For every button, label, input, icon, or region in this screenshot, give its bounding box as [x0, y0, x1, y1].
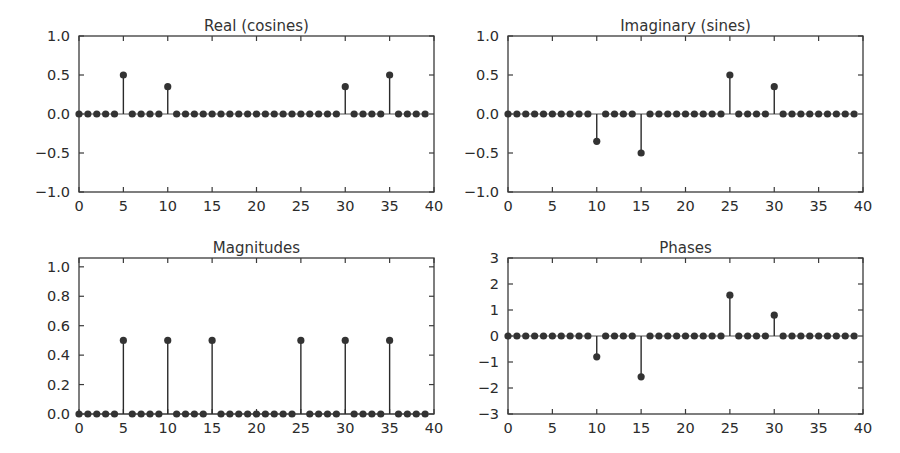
stem-marker [824, 332, 831, 339]
stem-marker [262, 410, 269, 417]
stem-marker [593, 138, 600, 145]
stem-series [504, 71, 857, 156]
stem-marker [235, 410, 242, 417]
stem-marker [271, 410, 278, 417]
stem-marker [682, 110, 689, 117]
chart-panel-real-cosines: Real (cosines)0510152025303540−1.0−0.50.… [0, 0, 900, 453]
axes-frame [79, 258, 434, 414]
stem-marker [182, 110, 189, 117]
x-ticklabel: 10 [588, 420, 606, 436]
stem-marker [691, 110, 698, 117]
y-ticklabel: −3 [478, 406, 499, 422]
stem-marker [377, 410, 384, 417]
x-ticklabel: 20 [676, 420, 694, 436]
stem-marker [717, 332, 724, 339]
stem-marker [200, 410, 207, 417]
chart-axes-real-cosines: 0510152025303540−1.0−0.50.00.51.0 [19, 30, 446, 218]
stem-marker [655, 110, 662, 117]
x-ticklabel: 40 [854, 420, 872, 436]
stem-marker [664, 110, 671, 117]
stem-marker [351, 410, 358, 417]
y-ticklabel: −1.0 [35, 184, 70, 200]
stem-marker [359, 110, 366, 117]
x-ticklabel: 15 [632, 198, 650, 214]
stem-marker [359, 410, 366, 417]
stem-marker [540, 332, 547, 339]
x-ticklabel: 30 [765, 198, 783, 214]
stem-marker [351, 110, 358, 117]
stem-marker [200, 110, 207, 117]
y-ticklabel: 0.5 [47, 67, 70, 83]
stem-marker [611, 332, 618, 339]
stem-marker [182, 410, 189, 417]
stem-marker [833, 110, 840, 117]
x-ticklabel: 30 [336, 198, 354, 214]
stem-marker [806, 110, 813, 117]
stem-marker [173, 110, 180, 117]
stem-marker [102, 410, 109, 417]
stem-marker [146, 410, 153, 417]
stem-marker [422, 110, 429, 117]
stem-marker [664, 332, 671, 339]
y-ticklabel: 0.5 [476, 67, 499, 83]
stem-marker [575, 332, 582, 339]
stem-marker [288, 110, 295, 117]
x-ticklabel: 40 [425, 198, 443, 214]
stem-marker [629, 110, 636, 117]
stem-marker [191, 410, 198, 417]
y-ticklabel: −1.0 [464, 184, 499, 200]
y-ticklabel: 2 [490, 276, 499, 292]
chart-axes-phases: 0510152025303540−3−2−10123 [448, 252, 875, 440]
stem-marker [540, 110, 547, 117]
stem-marker [629, 332, 636, 339]
y-ticklabel: 0.6 [47, 318, 70, 334]
y-ticklabel: −2 [478, 380, 499, 396]
x-ticklabel: 0 [503, 420, 512, 436]
stem-marker [111, 410, 118, 417]
stem-marker [549, 110, 556, 117]
stem-marker [815, 332, 822, 339]
stem-marker [851, 110, 858, 117]
stem-marker [413, 110, 420, 117]
stem-marker [368, 110, 375, 117]
stem-marker [744, 332, 751, 339]
stem-marker [129, 410, 136, 417]
stem-marker [315, 110, 322, 117]
stem-marker [620, 332, 627, 339]
stem-marker [395, 410, 402, 417]
stem-marker [788, 332, 795, 339]
chart-title-real-cosines: Real (cosines) [79, 17, 434, 35]
x-ticklabel: 5 [119, 420, 128, 436]
stem-marker [413, 410, 420, 417]
chart-panel-phases: Phases0510152025303540−3−2−10123 [0, 0, 900, 453]
stem-marker [333, 110, 340, 117]
x-ticklabel: 20 [247, 198, 265, 214]
stem-marker [575, 110, 582, 117]
y-ticklabel: 0 [490, 328, 499, 344]
stem-marker [395, 110, 402, 117]
stem-marker [567, 110, 574, 117]
stem-marker [638, 149, 645, 156]
stem-marker [138, 110, 145, 117]
stem-marker [584, 110, 591, 117]
stem-marker [75, 110, 82, 117]
y-ticklabel: 0.0 [47, 106, 70, 122]
stem-marker [842, 332, 849, 339]
y-ticklabel: 0.0 [476, 106, 499, 122]
stem-marker [726, 71, 733, 78]
chart-panel-imaginary-sines: Imaginary (sines)0510152025303540−1.0−0.… [0, 0, 900, 453]
stem-marker [771, 83, 778, 90]
stem-marker [513, 110, 520, 117]
stem-marker [146, 110, 153, 117]
stem-marker [771, 312, 778, 319]
stem-marker [522, 332, 529, 339]
stem-marker [513, 332, 520, 339]
stem-marker [280, 110, 287, 117]
stem-marker [504, 110, 511, 117]
stem-marker [593, 353, 600, 360]
stem-marker [244, 410, 251, 417]
stem-marker [646, 332, 653, 339]
chart-title-phases: Phases [508, 239, 863, 257]
x-ticklabel: 35 [380, 420, 398, 436]
stem-marker [691, 332, 698, 339]
